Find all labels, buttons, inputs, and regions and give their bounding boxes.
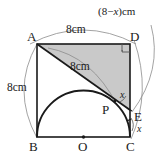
dimension-right-unit: cm: [122, 5, 135, 17]
geometry-figure: A B C D E P O 8cm 8cm 8cm (8−x)cm x x: [0, 0, 164, 164]
dimension-label-top: 8cm: [66, 24, 86, 36]
angle-label-e-upper: x: [120, 90, 124, 100]
dimension-label-diagonal: 8cm: [70, 61, 90, 73]
dimension-label-right: (8−x)cm: [98, 6, 135, 17]
point-p-dot: [114, 100, 117, 103]
dimension-right-open: (8: [98, 5, 107, 17]
angle-label-e-lower: x: [137, 124, 141, 134]
vertex-label-d: D: [130, 30, 139, 43]
vertex-label-b: B: [29, 140, 38, 153]
vertex-label-o: O: [78, 140, 87, 153]
angle-arc-e-lower: [131, 118, 133, 131]
vertex-label-a: A: [27, 30, 36, 43]
dimension-label-left: 8cm: [7, 82, 27, 94]
vertex-label-e: E: [134, 110, 142, 123]
vertex-label-c: C: [126, 140, 135, 153]
vertex-label-p: P: [102, 103, 109, 116]
